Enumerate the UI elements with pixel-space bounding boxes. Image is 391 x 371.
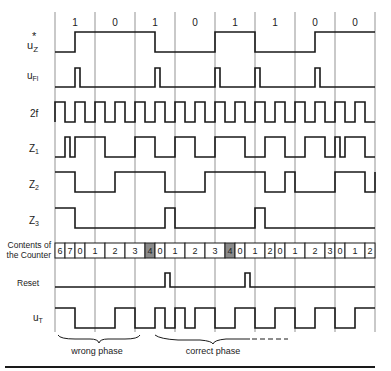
bit-label: 0 xyxy=(352,17,358,28)
signal-ut-trace xyxy=(55,308,375,328)
counter-cell-value: 2 xyxy=(112,246,117,256)
label-z3: Z3 xyxy=(29,215,39,227)
label-ut: uT xyxy=(33,312,44,324)
counter-contents-row: 6701234012340120123012 xyxy=(55,243,375,258)
counter-cell-value: 1 xyxy=(352,246,357,256)
label-ufl: uFl xyxy=(27,70,39,82)
counter-cell-value: 0 xyxy=(77,246,82,256)
signal-ufl-trace xyxy=(55,68,375,87)
signal-uz-trace xyxy=(55,32,375,52)
signal-z1-trace xyxy=(55,137,375,157)
label-reset: Reset xyxy=(17,278,40,288)
counter-cell-value: 6 xyxy=(57,246,62,256)
label-z2: Z2 xyxy=(29,179,39,191)
counter-cell-value: 4 xyxy=(227,246,232,256)
bit-label: 1 xyxy=(152,17,158,28)
counter-cell-value: 2 xyxy=(267,246,272,256)
counter-cell-value: 2 xyxy=(192,246,197,256)
signal-2f-clock-trace xyxy=(55,102,375,122)
counter-cell-value: 0 xyxy=(277,246,282,256)
bit-label: 1 xyxy=(272,17,278,28)
bit-label: 1 xyxy=(72,17,78,28)
counter-cell-value: 2 xyxy=(367,246,372,256)
correct-phase-brace xyxy=(155,335,250,344)
bit-label: 0 xyxy=(192,17,198,28)
counter-cell-value: 7 xyxy=(67,246,72,256)
counter-cell-value: 2 xyxy=(312,246,317,256)
counter-cell-value: 1 xyxy=(92,246,97,256)
bit-label: 1 xyxy=(232,17,238,28)
counter-cell-value: 1 xyxy=(252,246,257,256)
wrong-phase-brace xyxy=(58,335,140,343)
correct-phase-label: correct phase xyxy=(186,346,241,356)
counter-cell-value: 3 xyxy=(212,246,217,256)
counter-cell-value: 1 xyxy=(172,246,177,256)
timing-diagram: 10101100 uZ* uFl 2f Z1 Z2 Z3 Contents of… xyxy=(0,0,391,371)
label-z1: Z1 xyxy=(29,143,39,155)
counter-cell-value: 0 xyxy=(337,246,342,256)
counter-cell-value: 3 xyxy=(327,246,332,256)
counter-cell-value: 0 xyxy=(237,246,242,256)
counter-cell-value: 1 xyxy=(292,246,297,256)
label-uz-star: uZ* xyxy=(27,30,38,54)
label-2f: 2f xyxy=(30,108,39,119)
bit-label: 0 xyxy=(312,17,318,28)
counter-cell-value: 0 xyxy=(157,246,162,256)
label-counter-line2: the Counter xyxy=(7,250,52,260)
wrong-phase-label: wrong phase xyxy=(70,346,123,356)
counter-cell-value: 3 xyxy=(132,246,137,256)
bit-label: 0 xyxy=(112,17,118,28)
label-counter-line1: Contents of xyxy=(8,240,52,250)
counter-cell-value: 4 xyxy=(147,246,152,256)
